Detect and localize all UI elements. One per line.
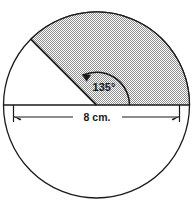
geometry-figure: 135° 8 cm. [0,0,194,210]
dimension-label: 8 cm. [84,111,111,123]
angle-label: 135° [93,81,116,93]
circle-sector-svg: 135° 8 cm. [0,0,194,210]
